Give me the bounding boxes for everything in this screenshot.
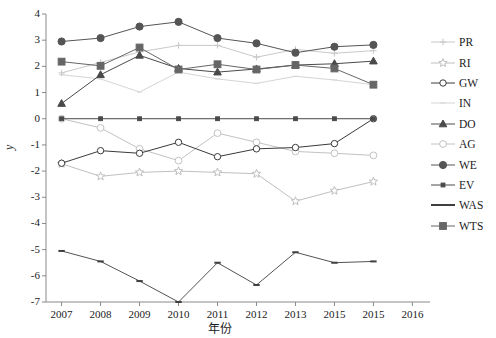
legend-label: IN bbox=[456, 97, 471, 109]
legend-item-was[interactable]: WAS bbox=[430, 195, 496, 215]
legend-label: WE bbox=[456, 159, 477, 171]
data-point bbox=[177, 117, 181, 121]
legend-label: WTS bbox=[456, 220, 483, 232]
data-point bbox=[214, 130, 221, 137]
chart-plot-area bbox=[0, 0, 496, 338]
y-tick-label: 1 bbox=[8, 86, 40, 98]
data-point bbox=[331, 150, 338, 157]
data-point bbox=[372, 117, 376, 121]
data-point bbox=[441, 183, 445, 187]
legend-label: WAS bbox=[456, 199, 483, 211]
data-point bbox=[214, 61, 221, 68]
data-point bbox=[97, 147, 103, 153]
wts-symbol-icon bbox=[430, 219, 456, 233]
data-point bbox=[253, 40, 260, 47]
was-symbol-icon bbox=[430, 198, 456, 212]
data-point bbox=[58, 58, 65, 65]
y-tick-label: -5 bbox=[8, 243, 40, 255]
series-ev bbox=[60, 117, 376, 121]
data-point bbox=[216, 117, 220, 121]
chart-legend: PRRIGWINDOAGWEEVWASWTS bbox=[430, 32, 496, 236]
data-point bbox=[439, 58, 447, 66]
data-point bbox=[96, 172, 104, 180]
legend-item-ri[interactable]: RI bbox=[430, 52, 496, 72]
data-point bbox=[138, 117, 142, 121]
legend-label: DO bbox=[456, 118, 476, 130]
legend-item-gw[interactable]: GW bbox=[430, 73, 496, 93]
x-tick-label: 2012 bbox=[234, 308, 278, 320]
ri-symbol-icon bbox=[430, 56, 456, 70]
data-point bbox=[253, 139, 260, 146]
data-point bbox=[58, 160, 64, 166]
legend-label: AG bbox=[456, 138, 476, 150]
data-point bbox=[136, 150, 142, 156]
data-point bbox=[292, 144, 298, 150]
data-point bbox=[175, 66, 182, 73]
x-tick-label: 2016 bbox=[390, 308, 434, 320]
y-tick-label: 2 bbox=[8, 59, 40, 71]
data-point bbox=[99, 117, 103, 121]
data-point bbox=[370, 41, 377, 48]
legend-item-ev[interactable]: EV bbox=[430, 175, 496, 195]
ev-symbol-icon bbox=[430, 178, 456, 192]
data-point bbox=[255, 117, 259, 121]
data-point bbox=[440, 141, 447, 148]
series-ri bbox=[57, 159, 377, 204]
y-tick-label: -7 bbox=[8, 295, 40, 307]
series-wts bbox=[58, 44, 377, 88]
data-point bbox=[370, 57, 378, 64]
legend-item-wts[interactable]: WTS bbox=[430, 216, 496, 236]
y-tick-label: -4 bbox=[8, 216, 40, 228]
data-point bbox=[253, 66, 260, 73]
data-point bbox=[292, 62, 299, 69]
data-point bbox=[369, 177, 377, 185]
y-tick-label: -3 bbox=[8, 190, 40, 202]
legend-item-do[interactable]: DO bbox=[430, 114, 496, 134]
data-point bbox=[291, 197, 299, 205]
data-point bbox=[213, 168, 221, 176]
series-gw bbox=[58, 116, 376, 167]
data-point bbox=[97, 34, 104, 41]
data-point bbox=[60, 117, 64, 121]
legend-item-pr[interactable]: PR bbox=[430, 32, 496, 52]
x-tick-label: 2007 bbox=[40, 308, 84, 320]
data-point bbox=[97, 62, 104, 69]
data-point bbox=[135, 168, 143, 176]
legend-item-in[interactable]: IN bbox=[430, 93, 496, 113]
y-tick-label: -1 bbox=[8, 138, 40, 150]
data-point bbox=[58, 100, 66, 107]
in-symbol-icon bbox=[430, 96, 456, 110]
data-point bbox=[175, 157, 182, 164]
pr-symbol-icon bbox=[430, 35, 456, 49]
data-point bbox=[292, 49, 299, 56]
data-point bbox=[214, 153, 220, 159]
x-tick-label: 2010 bbox=[157, 308, 201, 320]
data-point bbox=[439, 120, 447, 127]
series-line bbox=[62, 251, 374, 302]
data-point bbox=[97, 124, 104, 131]
data-point bbox=[58, 38, 65, 45]
ag-symbol-icon bbox=[430, 137, 456, 151]
legend-item-we[interactable]: WE bbox=[430, 154, 496, 174]
chart-figure: y 年份 PRRIGWINDOAGWEEVWASWTS 43210-1-2-3-… bbox=[0, 0, 496, 338]
we-symbol-icon bbox=[430, 158, 456, 172]
legend-label: RI bbox=[456, 57, 471, 69]
legend-label: GW bbox=[456, 77, 478, 89]
data-point bbox=[331, 140, 337, 146]
data-point bbox=[136, 23, 143, 30]
data-point bbox=[370, 81, 377, 88]
legend-label: PR bbox=[456, 36, 473, 48]
legend-item-ag[interactable]: AG bbox=[430, 134, 496, 154]
y-tick-label: 4 bbox=[8, 7, 40, 19]
gw-symbol-icon bbox=[430, 76, 456, 90]
x-tick-label: 2009 bbox=[118, 308, 162, 320]
do-symbol-icon bbox=[430, 117, 456, 131]
y-tick-label: -2 bbox=[8, 164, 40, 176]
legend-label: EV bbox=[456, 179, 474, 191]
data-point bbox=[440, 222, 447, 229]
x-tick-label: 2008 bbox=[79, 308, 123, 320]
x-axis-label: 年份 bbox=[0, 319, 440, 337]
data-point bbox=[175, 18, 182, 25]
data-point bbox=[136, 44, 143, 51]
series-was bbox=[58, 251, 376, 302]
